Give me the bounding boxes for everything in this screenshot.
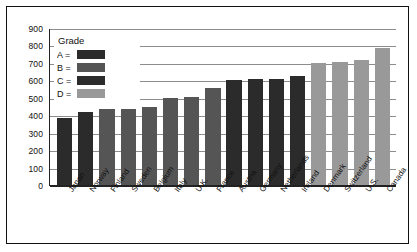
bar-slot bbox=[202, 29, 223, 185]
bar[interactable] bbox=[184, 97, 199, 185]
legend-item: D = bbox=[57, 87, 137, 100]
bar-slot bbox=[245, 29, 266, 185]
y-axis-tick-label: 500 bbox=[29, 94, 43, 104]
legend-swatch bbox=[77, 50, 105, 59]
bar-slot bbox=[372, 29, 393, 185]
x-label-slot: Norway bbox=[74, 187, 95, 247]
x-label-slot: U.K. bbox=[181, 187, 202, 247]
bar[interactable] bbox=[311, 63, 326, 185]
legend-item-label: D = bbox=[57, 89, 77, 99]
y-axis-tick-label: 700 bbox=[29, 59, 43, 69]
x-label-slot: Germany bbox=[244, 187, 265, 247]
bar-slot bbox=[139, 29, 160, 185]
legend-swatch bbox=[77, 76, 105, 85]
bar-slot bbox=[308, 29, 329, 185]
legend-item: A = bbox=[57, 48, 137, 61]
y-axis-tick-label: 400 bbox=[29, 111, 43, 121]
x-label-slot: Netherlands bbox=[266, 187, 287, 247]
legend-item: B = bbox=[57, 61, 137, 74]
legend-items: A =B =C =D = bbox=[57, 48, 137, 100]
x-label-slot: Canada bbox=[372, 187, 393, 247]
legend-title: Grade bbox=[58, 35, 137, 46]
legend-item: C = bbox=[57, 74, 137, 87]
legend: Grade A =B =C =D = bbox=[54, 33, 140, 103]
x-label-slot: U.S. bbox=[351, 187, 372, 247]
x-label-slot: France bbox=[202, 187, 223, 247]
x-label-slot: Austria bbox=[223, 187, 244, 247]
x-label-slot: Japan bbox=[53, 187, 74, 247]
bar-slot bbox=[181, 29, 202, 185]
y-axis-tick-label: 300 bbox=[29, 129, 43, 139]
x-axis-tick-labels: JapanNorwayFinlandSwedenBelgiumItalyU.K.… bbox=[49, 187, 396, 247]
y-axis-tick-label: 200 bbox=[29, 146, 43, 156]
bar[interactable] bbox=[375, 48, 390, 185]
legend-item-label: C = bbox=[57, 76, 77, 86]
y-axis-tick-label: 600 bbox=[29, 76, 43, 86]
bar[interactable] bbox=[57, 118, 72, 185]
legend-item-label: B = bbox=[57, 63, 77, 73]
x-label-slot: Finland bbox=[96, 187, 117, 247]
bar-slot bbox=[160, 29, 181, 185]
bar-slot bbox=[224, 29, 245, 185]
y-axis-tick-label: 100 bbox=[29, 164, 43, 174]
chart-frame: 9008007006005004003002001000 JapanNorway… bbox=[6, 6, 409, 244]
legend-swatch bbox=[77, 63, 105, 72]
x-label-slot: Italy bbox=[159, 187, 180, 247]
bar[interactable] bbox=[205, 88, 220, 185]
x-label-slot: Denmark bbox=[308, 187, 329, 247]
y-axis-tick-label: 0 bbox=[38, 181, 43, 191]
y-axis-tick-label: 900 bbox=[29, 24, 43, 34]
x-label-slot: Belgium bbox=[138, 187, 159, 247]
x-label-slot: Sweden bbox=[117, 187, 138, 247]
x-label-slot: Switzerland bbox=[329, 187, 350, 247]
y-axis-tick-labels: 9008007006005004003002001000 bbox=[7, 29, 47, 186]
legend-swatch bbox=[77, 89, 105, 98]
y-axis-tick-label: 800 bbox=[29, 41, 43, 51]
legend-item-label: A = bbox=[57, 50, 77, 60]
x-label-slot: Ireland bbox=[287, 187, 308, 247]
